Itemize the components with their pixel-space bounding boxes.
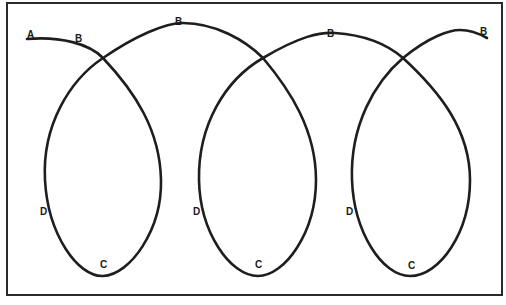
looping-curve-path [27, 23, 487, 276]
point-label-b: B [175, 16, 182, 27]
point-label-b: B [480, 26, 487, 37]
point-label-b: B [75, 33, 82, 44]
point-label-b: B [327, 28, 334, 39]
point-label-c: C [100, 259, 107, 270]
looping-curve-diagram: A B B B B D D D C C C [0, 0, 506, 305]
point-label-a: A [27, 29, 34, 40]
diagram-frame [7, 3, 502, 295]
point-label-c: C [408, 260, 415, 271]
point-label-d: D [193, 206, 200, 217]
point-label-c: C [255, 259, 262, 270]
point-label-d: D [346, 206, 353, 217]
point-label-d: D [40, 206, 47, 217]
